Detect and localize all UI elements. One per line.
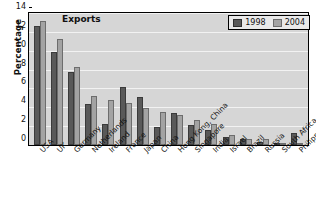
legend-item-2004: 2004 xyxy=(273,18,305,27)
legend-swatch-icon-1998 xyxy=(233,19,242,27)
legend-label-1998: 1998 xyxy=(245,18,265,27)
legend-swatch-icon-2004 xyxy=(273,19,282,27)
bar xyxy=(40,21,46,145)
plot-area xyxy=(28,12,309,146)
bar-group xyxy=(272,13,289,145)
bar-groups xyxy=(29,13,308,145)
legend-item-1998: 1998 xyxy=(233,18,265,27)
x-axis-tick-labels: USAUKGermanyNetherlandsIrelandFranceJapa… xyxy=(28,148,309,210)
bar xyxy=(57,39,63,145)
bar-group xyxy=(31,13,48,145)
bar-group xyxy=(65,13,82,145)
bar-group xyxy=(151,13,168,145)
y-tick-label: 6 xyxy=(6,78,26,86)
y-tick-mark xyxy=(29,7,32,8)
y-tick-label: 10 xyxy=(6,41,26,49)
exports-bar-chart: Percentage 02468101214 Exports 1998 2004… xyxy=(0,0,316,210)
bar-group xyxy=(169,13,186,145)
chart-title: Exports xyxy=(62,14,101,24)
bar xyxy=(74,67,80,145)
bar-group xyxy=(134,13,151,145)
y-tick-label: 12 xyxy=(6,22,26,30)
bar-group xyxy=(48,13,65,145)
y-tick-label: 8 xyxy=(6,60,26,68)
bar-group xyxy=(254,13,271,145)
y-tick-label: 2 xyxy=(6,116,26,124)
y-tick-label: 4 xyxy=(6,97,26,105)
y-tick-label: 14 xyxy=(6,3,26,11)
legend: 1998 2004 xyxy=(228,15,310,30)
y-tick-label: 0 xyxy=(6,135,26,143)
y-axis-tick-labels: 02468101214 xyxy=(4,6,26,152)
legend-label-2004: 2004 xyxy=(285,18,305,27)
bar-group xyxy=(237,13,254,145)
